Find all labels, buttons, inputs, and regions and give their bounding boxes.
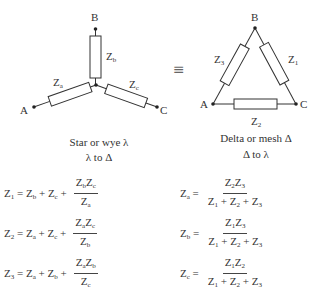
- star-title: Star or wye λ: [54, 136, 144, 148]
- node-center-dot: [94, 83, 98, 87]
- star-zb-label: Zb: [106, 50, 117, 64]
- star-za-label: Za: [53, 76, 64, 90]
- resistor-z1: [260, 42, 289, 85]
- resistor-zb: [90, 36, 101, 78]
- star-node-a-label: A: [20, 104, 28, 116]
- resistor-z3: [220, 44, 249, 86]
- delta-z3-label: Z3: [214, 53, 225, 67]
- resistor-z2: [234, 99, 277, 109]
- delta-conversion-label: Δ to λ: [206, 148, 306, 160]
- delta-z1-label: Z1: [288, 53, 299, 67]
- formula-z3: Z3 = Za + Zb + ZaZbZc: [4, 256, 98, 291]
- star-node-b-label: B: [91, 11, 98, 23]
- star-node-c-label: C: [160, 104, 167, 116]
- delta-node-c-label: C: [300, 98, 307, 110]
- star-network: [32, 29, 159, 112]
- formula-z2: Z2 = Za + Zc + ZaZcZb: [4, 216, 97, 251]
- node-c-dot: [155, 105, 159, 109]
- delta-node-b-label: B: [251, 11, 258, 23]
- star-zc-label: Zc: [129, 78, 139, 92]
- node-b-dot: [94, 27, 98, 31]
- formula-z1: Z1 = Zb + Zc + ZbZcZa: [4, 176, 98, 211]
- delta-network: [209, 26, 301, 109]
- equivalence-symbol: ≡: [173, 61, 185, 77]
- formula-zb: Zb = Z1Z3Z1 + Z2 + Z3: [180, 216, 264, 251]
- delta-z2-label: Z2: [251, 115, 262, 129]
- delta-node-a-label: A: [200, 98, 208, 110]
- circuit-diagrams: B A C Zb Za Zc ≡ B A C Z3: [0, 0, 321, 170]
- node-a-dot: [32, 105, 36, 109]
- resistor-zc: [105, 84, 148, 108]
- delta-title: Delta or mesh Δ: [206, 132, 306, 144]
- formula-zc: Zc = Z1Z2Z1 + Z2 + Z3: [180, 256, 264, 291]
- formula-za: Za = Z2Z3Z1 + Z2 + Z3: [180, 176, 264, 211]
- star-conversion-label: λ to Δ: [54, 151, 144, 163]
